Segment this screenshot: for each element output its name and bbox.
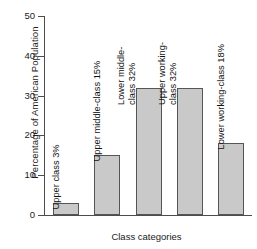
bar-chart: Percentage of American Population 010203…: [0, 0, 257, 249]
bar-value-label: Upper working- class 32%: [157, 42, 178, 105]
y-axis-tick: [38, 215, 44, 216]
bar-value-label: Lower working-class 18%: [216, 44, 227, 149]
plot-area: Upper class 3%Upper middle-class 15%Lowe…: [45, 16, 252, 215]
y-axis-tick: [38, 175, 44, 176]
bar-value-label: Lower middle- class 32%: [116, 46, 137, 104]
bar: [136, 88, 162, 215]
y-axis-tick-label: 50: [7, 10, 35, 21]
y-axis-tick-label: 20: [7, 129, 35, 140]
bar: [218, 143, 244, 215]
x-axis-title: Class categories: [44, 231, 249, 242]
y-axis-tick-label: 10: [7, 169, 35, 180]
bar: [94, 155, 120, 215]
y-axis-tick-label: 0: [7, 209, 35, 220]
y-axis-tick: [38, 16, 44, 17]
y-axis-tick: [38, 96, 44, 97]
y-axis-tick: [38, 56, 44, 57]
y-axis-tick: [38, 135, 44, 136]
bar-value-label: Upper middle-class 15%: [92, 61, 103, 162]
y-axis-tick-label: 30: [7, 90, 35, 101]
y-axis-tick-label: 40: [7, 50, 35, 61]
x-axis-line: [44, 215, 252, 216]
bar-value-label: Upper class 3%: [50, 144, 61, 209]
bar: [177, 88, 203, 215]
